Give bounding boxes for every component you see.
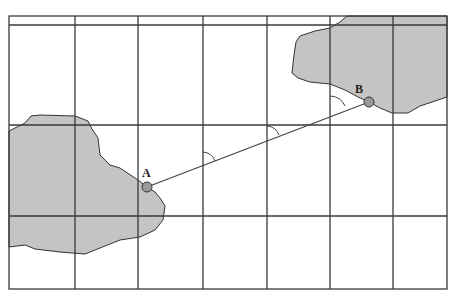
angle-arc-3 bbox=[330, 96, 345, 106]
landmass-west bbox=[9, 115, 165, 254]
point-a bbox=[142, 182, 152, 192]
label-a: A bbox=[142, 166, 151, 180]
angle-arc-2 bbox=[267, 126, 279, 135]
angle-arc-1 bbox=[203, 152, 215, 161]
point-b bbox=[364, 97, 374, 107]
route-line-a-b bbox=[147, 102, 369, 187]
label-b: B bbox=[355, 82, 363, 96]
map-diagram: A B bbox=[0, 0, 455, 298]
